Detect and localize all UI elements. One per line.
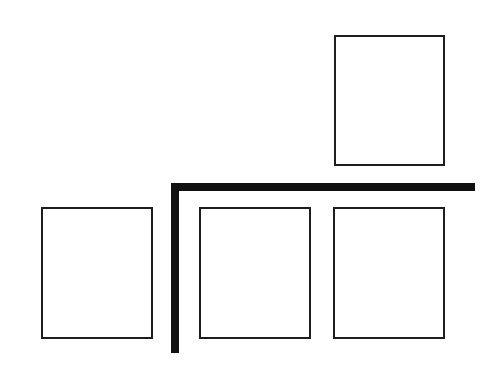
box-bottom-middle bbox=[199, 207, 311, 339]
box-top-right bbox=[334, 35, 445, 166]
divider-vertical bbox=[171, 183, 179, 353]
box-bottom-left bbox=[41, 207, 153, 339]
box-bottom-right bbox=[333, 207, 445, 339]
divider-horizontal bbox=[171, 183, 475, 191]
